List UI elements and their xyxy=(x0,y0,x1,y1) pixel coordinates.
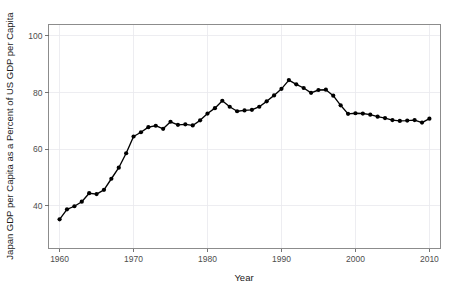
data-point xyxy=(405,119,409,123)
y-tick-label: 40 xyxy=(33,201,43,211)
y-tick-label: 100 xyxy=(28,31,42,41)
plot-panel-background xyxy=(49,25,441,249)
data-point xyxy=(383,116,387,120)
data-point xyxy=(420,121,424,125)
data-point xyxy=(235,109,239,113)
chart-figure: 196019701980199020002010 406080100 Year … xyxy=(0,0,453,292)
data-point xyxy=(242,108,246,112)
data-point xyxy=(109,177,113,181)
data-point xyxy=(87,191,91,195)
data-point xyxy=(287,78,291,82)
data-point xyxy=(117,166,121,170)
data-point xyxy=(124,151,128,155)
data-point xyxy=(198,118,202,122)
data-point xyxy=(176,123,180,127)
data-point xyxy=(309,91,313,95)
data-point xyxy=(265,99,269,103)
data-point xyxy=(361,111,365,115)
data-point xyxy=(324,88,328,92)
data-point xyxy=(331,94,335,98)
data-point xyxy=(339,103,343,107)
x-tick-label: 1970 xyxy=(124,254,143,264)
data-point xyxy=(376,115,380,119)
data-point xyxy=(257,105,261,109)
data-point xyxy=(191,123,195,127)
x-tick-label: 1960 xyxy=(50,254,69,264)
data-point xyxy=(346,112,350,116)
x-tick-label: 2010 xyxy=(420,254,439,264)
data-point xyxy=(168,120,172,124)
data-point xyxy=(316,88,320,92)
data-point xyxy=(413,118,417,122)
x-axis-title: Year xyxy=(234,272,253,283)
data-point xyxy=(272,93,276,97)
data-point xyxy=(213,106,217,110)
line-chart-canvas: 196019701980199020002010 406080100 Year … xyxy=(0,0,453,292)
data-point xyxy=(353,111,357,115)
data-point xyxy=(398,119,402,123)
data-point xyxy=(57,217,61,221)
data-point xyxy=(94,192,98,196)
data-point xyxy=(161,127,165,131)
data-point xyxy=(228,105,232,109)
x-tick-label: 1980 xyxy=(198,254,217,264)
y-tick-label: 80 xyxy=(33,88,43,98)
data-point xyxy=(294,82,298,86)
data-point xyxy=(279,87,283,91)
data-point xyxy=(146,125,150,129)
data-point xyxy=(302,86,306,90)
data-point xyxy=(205,111,209,115)
x-tick-label: 2000 xyxy=(346,254,365,264)
x-tick-label: 1990 xyxy=(272,254,291,264)
data-point xyxy=(131,134,135,138)
y-axis-title: Japan GDP per Capita as a Percent of US … xyxy=(4,12,15,260)
data-point xyxy=(72,204,76,208)
data-point xyxy=(139,130,143,134)
data-point xyxy=(183,122,187,126)
data-point xyxy=(220,99,224,103)
data-point xyxy=(368,113,372,117)
data-point xyxy=(80,200,84,204)
data-point xyxy=(250,108,254,112)
data-point xyxy=(102,188,106,192)
y-tick-label: 60 xyxy=(33,144,43,154)
data-point xyxy=(154,124,158,128)
data-point xyxy=(65,207,69,211)
data-point xyxy=(390,118,394,122)
data-point xyxy=(427,117,431,121)
